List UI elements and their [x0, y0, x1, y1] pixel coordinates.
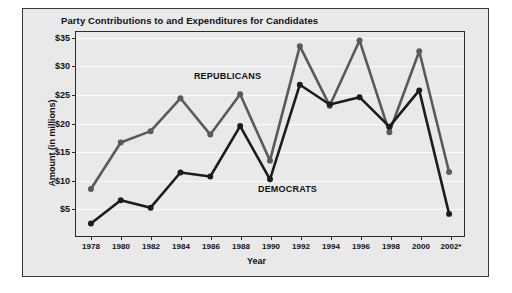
data-point: [357, 94, 363, 100]
y-tick-label: $30: [55, 61, 70, 71]
x-tick-label: 2002*: [441, 242, 462, 251]
data-point: [267, 176, 273, 182]
x-tick-label: 1998: [382, 242, 400, 251]
data-point: [386, 124, 392, 130]
x-tick-label: 1988: [232, 242, 250, 251]
plot-area: $5$10$15$20$25$30$35 1978198019821984198…: [75, 31, 465, 237]
data-point: [446, 169, 452, 175]
data-point: [267, 158, 273, 164]
series-lines: [76, 32, 464, 236]
data-point: [118, 140, 124, 146]
x-tick-mark: [91, 236, 92, 240]
data-point: [148, 128, 154, 134]
data-point: [446, 211, 452, 217]
x-tick-mark: [391, 236, 392, 240]
data-point: [88, 186, 94, 192]
data-point: [207, 132, 213, 138]
y-tick-label: $20: [55, 119, 70, 129]
x-tick-mark: [211, 236, 212, 240]
data-point: [88, 221, 94, 227]
data-point: [327, 102, 333, 108]
x-tick-label: 1984: [172, 242, 190, 251]
data-point: [118, 197, 124, 203]
series-label-republicans: REPUBLICANS: [194, 71, 261, 81]
y-tick-label: $25: [55, 90, 70, 100]
x-tick-label: 2000: [412, 242, 430, 251]
x-tick-mark: [121, 236, 122, 240]
series-line: [91, 41, 449, 189]
data-point: [386, 129, 392, 135]
x-tick-mark: [151, 236, 152, 240]
data-point: [416, 87, 422, 93]
data-point: [297, 82, 303, 88]
y-tick-label: $10: [55, 176, 70, 186]
x-tick-mark: [301, 236, 302, 240]
y-tick-label: $15: [55, 147, 70, 157]
x-tick-mark: [271, 236, 272, 240]
series-line: [91, 85, 449, 224]
data-point: [177, 95, 183, 101]
y-tick-label: $35: [55, 33, 70, 43]
series-label-democrats: DEMOCRATS: [258, 184, 317, 194]
x-axis-title: Year: [23, 256, 490, 266]
x-tick-mark: [361, 236, 362, 240]
chart-title: Party Contributions to and Expenditures …: [61, 15, 318, 26]
data-point: [416, 48, 422, 54]
x-tick-mark: [241, 236, 242, 240]
x-tick-label: 1990: [262, 242, 280, 251]
data-point: [297, 43, 303, 49]
x-tick-mark: [331, 236, 332, 240]
x-tick-label: 1994: [322, 242, 340, 251]
data-point: [148, 205, 154, 211]
data-point: [237, 123, 243, 129]
y-tick-label: $5: [60, 204, 70, 214]
x-tick-label: 1996: [352, 242, 370, 251]
x-tick-label: 1978: [82, 242, 100, 251]
chart-panel: Party Contributions to and Expenditures …: [22, 8, 489, 277]
x-tick-label: 1982: [142, 242, 160, 251]
x-tick-label: 1986: [202, 242, 220, 251]
x-tick-mark: [181, 236, 182, 240]
x-tick-label: 1992: [292, 242, 310, 251]
data-point: [357, 38, 363, 44]
x-tick-mark: [421, 236, 422, 240]
x-tick-label: 1980: [112, 242, 130, 251]
x-tick-mark: [451, 236, 452, 240]
data-point: [207, 174, 213, 180]
data-point: [237, 91, 243, 97]
data-point: [177, 170, 183, 176]
